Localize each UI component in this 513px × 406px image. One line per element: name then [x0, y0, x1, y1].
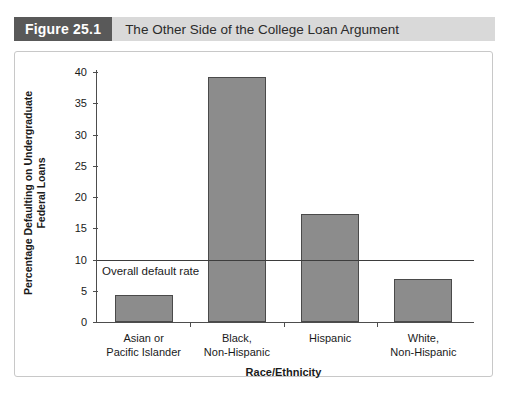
x-category-label-line: Pacific Islander	[97, 345, 190, 359]
x-tick-mark	[377, 322, 378, 327]
overall-default-rate-line	[97, 260, 474, 261]
y-tick-mark	[93, 103, 98, 104]
y-tick-label: 0	[65, 316, 87, 328]
x-category-label-line: Non-Hispanic	[377, 345, 470, 359]
y-tick-mark	[93, 291, 98, 292]
figure-header: Figure 25.1 The Other Side of the Colleg…	[14, 17, 495, 41]
x-category-label-line: White,	[377, 331, 470, 345]
x-category-label: Hispanic	[284, 331, 377, 345]
x-category-label: Black,Non-Hispanic	[190, 331, 283, 359]
overall-default-rate-label: Overall default rate	[102, 265, 199, 277]
bar	[208, 77, 266, 322]
bar	[394, 279, 452, 322]
y-tick-label: 40	[65, 66, 87, 78]
y-tick-label: 30	[65, 129, 87, 141]
y-tick-label: 10	[65, 254, 87, 266]
figure-title: The Other Side of the College Loan Argum…	[112, 17, 399, 41]
x-category-label-line: Asian or	[97, 331, 190, 345]
bar	[301, 214, 359, 322]
y-tick-mark	[93, 72, 98, 73]
y-tick-label: 5	[65, 285, 87, 297]
x-tick-mark	[284, 322, 285, 327]
x-axis-line	[96, 322, 474, 323]
y-tick-mark	[93, 166, 98, 167]
x-axis-title: Race/Ethnicity	[97, 366, 470, 378]
bar	[115, 295, 173, 322]
y-tick-label: 35	[65, 97, 87, 109]
y-tick-mark	[93, 135, 98, 136]
y-tick-mark	[93, 322, 98, 323]
x-category-label-line: Black,	[190, 331, 283, 345]
x-category-label: Asian orPacific Islander	[97, 331, 190, 359]
x-category-label-line: Non-Hispanic	[190, 345, 283, 359]
x-category-label: White,Non-Hispanic	[377, 331, 470, 359]
y-tick-label: 25	[65, 160, 87, 172]
y-tick-label: 20	[65, 191, 87, 203]
figure-number-badge: Figure 25.1	[14, 17, 112, 41]
x-category-label-line: Hispanic	[284, 331, 377, 345]
y-tick-mark	[93, 197, 98, 198]
y-tick-mark	[93, 228, 98, 229]
x-tick-mark	[190, 322, 191, 327]
y-tick-label: 15	[65, 222, 87, 234]
